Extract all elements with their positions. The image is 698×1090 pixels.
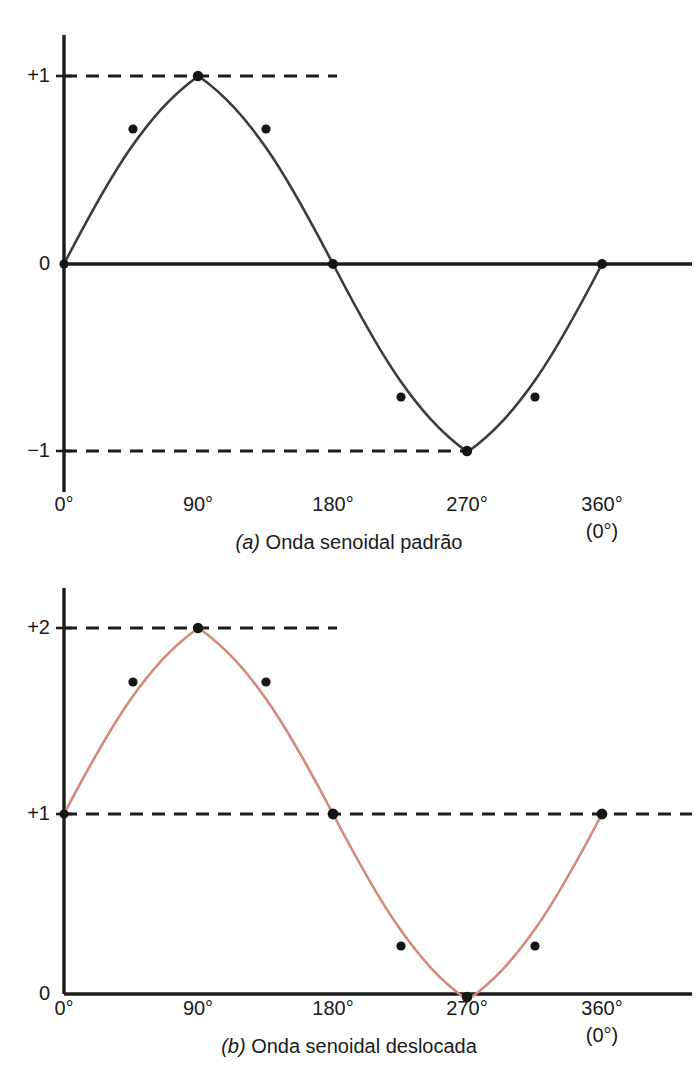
data-point-180deg (328, 259, 338, 269)
data-point-45deg (128, 677, 137, 686)
data-point-315deg (530, 941, 539, 950)
data-point-45deg (128, 124, 137, 133)
data-point-270deg (462, 446, 472, 456)
x-tick-label-90deg: 90° (163, 998, 233, 1018)
data-point-0deg (59, 259, 68, 268)
data-point-180deg (328, 809, 339, 820)
x-tick-label-360deg: 360° (567, 494, 637, 514)
figure-panel-b: +2 +1 0 0° 90° 180° 270° 360° (0°) (b) O… (0, 560, 698, 1090)
y-tick-label-plus2: +2 (0, 617, 50, 637)
x-tick-label-270deg: 270° (432, 494, 502, 514)
y-tick-label-plus1: +1 (0, 803, 50, 823)
data-point-225deg (396, 941, 405, 950)
y-tick-label-zero: 0 (0, 253, 50, 273)
data-point-225deg (396, 392, 405, 401)
y-tick-label-minus1: −1 (0, 440, 50, 460)
x-tick-label-180deg: 180° (298, 998, 368, 1018)
data-point-90deg (193, 71, 203, 81)
sine-wave-standard-plot (0, 0, 698, 560)
x-tick-label-270deg: 270° (432, 998, 502, 1018)
data-point-360deg (597, 259, 607, 269)
x-tick-label-90deg: 90° (163, 494, 233, 514)
figure-panel-a: +1 0 −1 0° 90° 180° 270° 360° (0°) (a) O… (0, 0, 698, 560)
panel-caption-b: (b) Onda senoidal deslocada (0, 1036, 698, 1056)
data-point-135deg (261, 677, 270, 686)
panel-caption-a: (a) Onda senoidal padrão (0, 532, 698, 552)
data-point-315deg (530, 392, 539, 401)
panel-caption-a-text: Onda senoidal padrão (266, 531, 463, 553)
x-tick-label-360deg: 360° (567, 998, 637, 1018)
panel-caption-b-text: Onda senoidal deslocada (251, 1035, 477, 1057)
data-point-0deg (59, 809, 68, 818)
data-point-90deg (193, 623, 203, 633)
y-tick-label-plus1: +1 (0, 65, 50, 85)
x-tick-label-0deg: 0° (29, 998, 99, 1018)
x-tick-label-180deg: 180° (298, 494, 368, 514)
panel-caption-a-prefix: (a) (236, 531, 260, 553)
panel-caption-b-prefix: (b) (221, 1035, 245, 1057)
data-point-360deg (597, 809, 608, 820)
data-point-135deg (261, 124, 270, 133)
x-tick-label-0deg: 0° (29, 494, 99, 514)
